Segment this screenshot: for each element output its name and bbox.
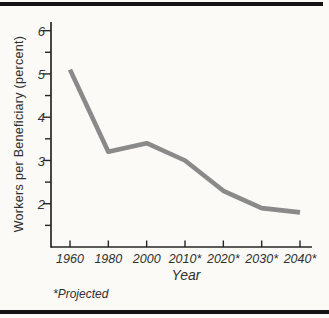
x-tick-label: 2030* [245,252,278,266]
x-tick-label: 1980 [94,252,122,266]
x-tick-label: 1960 [56,252,84,266]
y-tick-label: 4 [0,110,45,125]
bottom-rule [0,310,329,314]
line-chart [0,0,329,318]
y-tick-label: 6 [0,23,45,38]
x-tick-label: 2000 [133,252,161,266]
x-tick-label: 2010* [169,252,202,266]
projected-footnote: *Projected [53,287,108,301]
y-tick-label: 3 [0,153,45,168]
plot-area: Workers per Beneficiary (percent) 23456 … [0,0,329,318]
workers-per-beneficiary-figure: Workers per Beneficiary (percent) 23456 … [0,0,329,318]
x-tick-label: 2040* [284,252,317,266]
data-series-line [70,70,300,213]
x-tick-label: 2020* [207,252,240,266]
x-axis-title: Year [172,267,201,283]
y-tick-label: 5 [0,66,45,81]
y-tick-label: 2 [0,196,45,211]
